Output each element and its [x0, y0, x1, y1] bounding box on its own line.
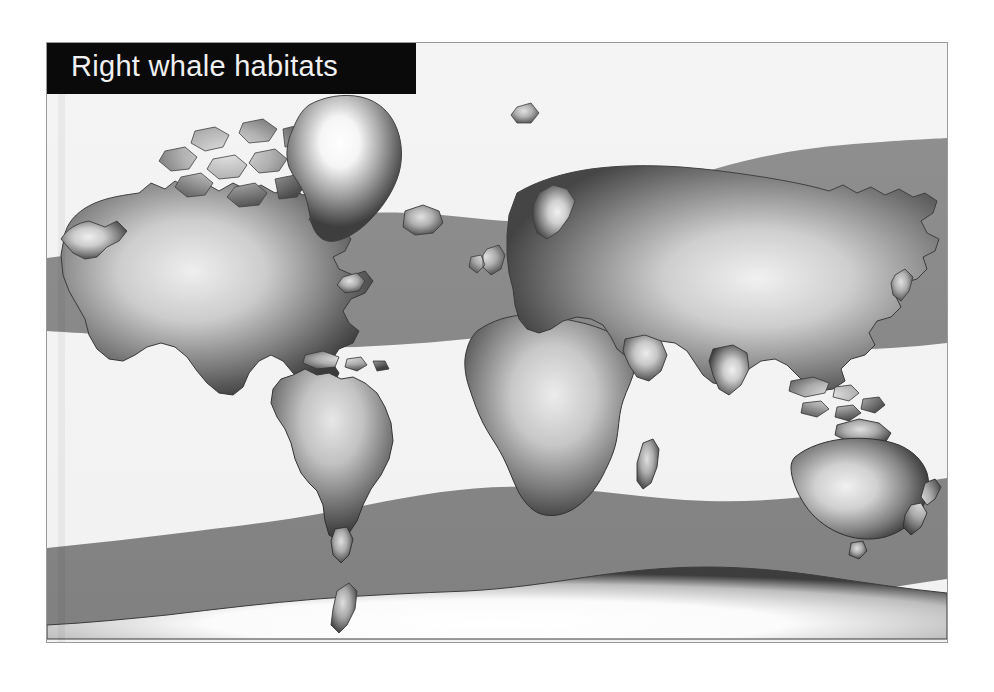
page-title: Right whale habitats	[71, 50, 338, 83]
title-bar: Right whale habitats	[47, 43, 416, 94]
world-map	[47, 43, 947, 642]
map-figure: Right whale habitats	[46, 42, 948, 643]
page-root: Right whale habitats	[0, 0, 994, 692]
paper-sheen	[47, 43, 947, 642]
